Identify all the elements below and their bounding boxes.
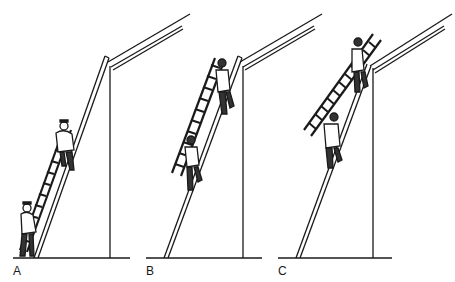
panel-label-c: C [278,264,287,278]
panel-label-b: B [146,264,154,278]
roof-b [240,14,322,62]
firefighter-c-lower [324,113,342,168]
panel-b [146,14,322,258]
panel-label-a: A [13,264,21,278]
roof-a [108,14,190,62]
panel-c [278,14,452,258]
ladder-raising-diagram [0,0,455,282]
panel-a [13,14,190,258]
roof-c [370,14,452,66]
